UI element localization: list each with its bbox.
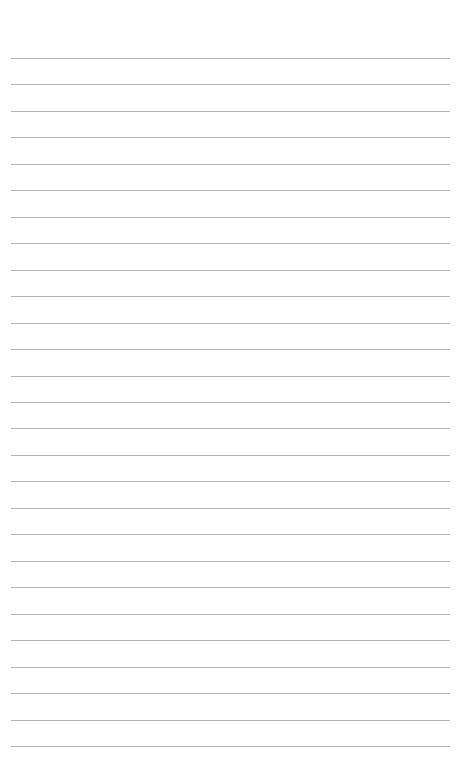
ruled-line — [11, 296, 450, 297]
ruled-line — [11, 376, 450, 377]
lined-paper-sheet — [0, 0, 470, 776]
ruled-line — [11, 428, 450, 429]
ruled-line — [11, 614, 450, 615]
ruled-line — [11, 402, 450, 403]
ruled-line — [11, 190, 450, 191]
ruled-line — [11, 164, 450, 165]
ruled-line — [11, 455, 450, 456]
ruled-line — [11, 561, 450, 562]
ruled-line — [11, 58, 450, 59]
ruled-line — [11, 111, 450, 112]
ruled-line — [11, 746, 450, 747]
ruled-line — [11, 481, 450, 482]
ruled-line — [11, 84, 450, 85]
ruled-line — [11, 217, 450, 218]
ruled-line — [11, 323, 450, 324]
ruled-line — [11, 137, 450, 138]
ruled-line — [11, 349, 450, 350]
ruled-line — [11, 508, 450, 509]
ruled-line — [11, 640, 450, 641]
ruled-line — [11, 587, 450, 588]
ruled-line — [11, 243, 450, 244]
ruled-line — [11, 667, 450, 668]
ruled-line — [11, 720, 450, 721]
ruled-line — [11, 270, 450, 271]
ruled-line — [11, 693, 450, 694]
ruled-line — [11, 534, 450, 535]
